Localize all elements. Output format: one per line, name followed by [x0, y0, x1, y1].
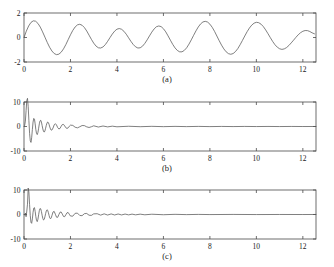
x-tick-label: 2	[69, 65, 73, 74]
y-tick-label: -10	[11, 147, 21, 156]
y-tick-label: 10	[13, 186, 21, 195]
x-tick-label: 10	[253, 242, 261, 251]
x-tick-label: 10	[253, 154, 261, 163]
figure-container: 024681012-202 (a) 024681012-10010 (b) 02…	[0, 0, 334, 267]
x-tick-label: 12	[299, 154, 307, 163]
y-tick-label: 10	[13, 98, 21, 107]
x-tick-label: 6	[162, 154, 166, 163]
y-tick-label: 0	[17, 210, 21, 219]
panel-caption-a: (a)	[0, 74, 334, 84]
x-tick-label: 12	[299, 242, 307, 251]
data-line	[24, 188, 316, 223]
x-tick-label: 0	[22, 154, 26, 163]
x-tick-label: 10	[253, 65, 261, 74]
y-tick-label: 0	[17, 122, 21, 131]
y-tick-label: -2	[14, 58, 20, 67]
panel-caption-c: (c)	[0, 251, 334, 261]
x-tick-label: 6	[162, 242, 166, 251]
axes-box	[24, 13, 316, 62]
x-tick-label: 12	[299, 65, 307, 74]
x-tick-label: 4	[115, 65, 119, 74]
x-tick-label: 4	[115, 242, 119, 251]
x-tick-label: 0	[22, 65, 26, 74]
y-tick-label: 0	[17, 33, 21, 42]
data-line	[24, 21, 314, 55]
data-line	[24, 98, 316, 142]
y-tick-label: -10	[11, 235, 21, 244]
x-tick-label: 2	[69, 242, 73, 251]
x-tick-label: 8	[208, 154, 212, 163]
x-tick-label: 8	[208, 65, 212, 74]
x-tick-label: 4	[115, 154, 119, 163]
y-tick-label: 2	[17, 9, 21, 18]
panel-caption-b: (b)	[0, 163, 334, 173]
x-tick-label: 0	[22, 242, 26, 251]
x-tick-label: 2	[69, 154, 73, 163]
x-tick-label: 6	[162, 65, 166, 74]
x-tick-label: 8	[208, 242, 212, 251]
